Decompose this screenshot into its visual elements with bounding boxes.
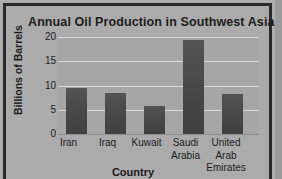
x-label-uae-line2: Arab (202, 150, 250, 163)
bar-iraq (105, 93, 126, 134)
chart-frame: Annual Oil Production in Southwest Asia … (3, 3, 272, 179)
page-margin (275, 0, 282, 179)
x-label-uae-line1: United (202, 137, 250, 150)
x-label-united-arab-emirates: United Arab Emirates (202, 137, 250, 175)
y-tick-20: 20 (34, 31, 56, 42)
x-label-uae-line3: Emirates (202, 162, 250, 175)
chart-title: Annual Oil Production in Southwest Asia (28, 15, 266, 31)
y-axis-label: Billions of Barrels (12, 35, 26, 115)
bar-united-arab-emirates (222, 94, 243, 134)
gridline-10 (58, 86, 259, 87)
bar-saudi-arabia (183, 40, 204, 134)
x-axis-label: Country (58, 166, 208, 178)
gridline-20 (58, 37, 259, 38)
x-axis-line (58, 134, 259, 135)
bar-iran (66, 88, 87, 134)
plot-area (58, 37, 259, 134)
y-axis-tick-labels: 20 15 10 5 0 (32, 37, 56, 134)
y-tick-15: 15 (34, 55, 56, 66)
chart-figure: Annual Oil Production in Southwest Asia … (0, 0, 282, 179)
gridline-15 (58, 61, 259, 62)
y-tick-5: 5 (34, 104, 56, 115)
y-tick-10: 10 (34, 80, 56, 91)
bar-kuwait (144, 106, 165, 134)
